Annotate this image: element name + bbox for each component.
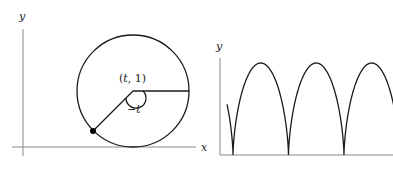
right-figure: y (215, 40, 393, 155)
left-figure: y x (t, 1) −t (12, 10, 208, 156)
right-y-axis-label: y (215, 40, 223, 53)
angle-label: −t (127, 103, 141, 116)
diagram-canvas: y x (t, 1) −t y (0, 0, 393, 169)
tracing-point (90, 128, 96, 134)
center-label: (t, 1) (119, 72, 146, 85)
left-x-axis-label: x (201, 141, 208, 154)
cycloid-curve (227, 63, 393, 155)
left-y-axis-label: y (18, 10, 26, 23)
